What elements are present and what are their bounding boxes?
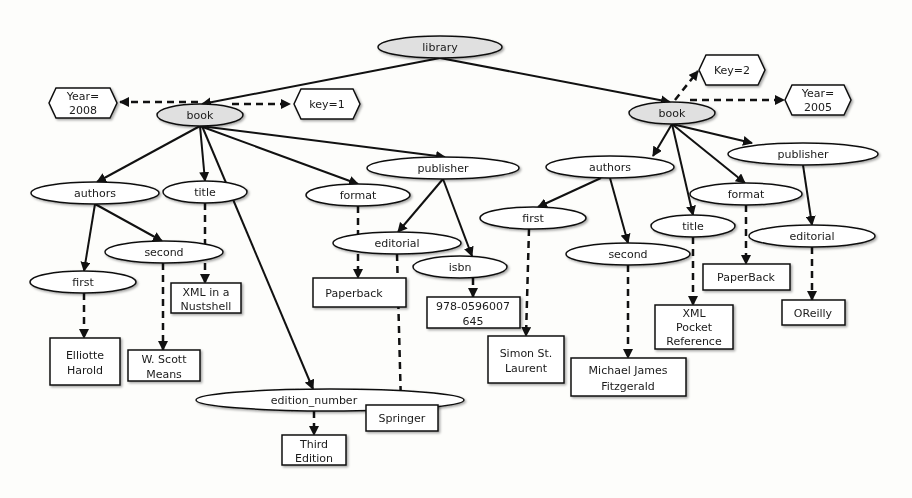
svg-text:W. Scott: W. Scott: [142, 353, 188, 366]
svg-text:title: title: [682, 220, 704, 233]
value-w-scott-means: W. Scott Means: [128, 350, 200, 381]
value-paperback-2: PaperBack: [703, 264, 790, 290]
value-springer: Springer: [366, 405, 438, 431]
node-label: book: [187, 109, 214, 122]
svg-text:Nustshell: Nustshell: [181, 300, 232, 313]
svg-text:OReilly: OReilly: [794, 307, 833, 320]
svg-text:format: format: [728, 188, 765, 201]
svg-text:Harold: Harold: [67, 364, 103, 377]
node-book-2: book: [629, 102, 715, 124]
node-first-1: first: [30, 271, 136, 293]
value-michael-james-fitzgerald: Michael James Fitzgerald: [571, 358, 686, 396]
svg-text:Third: Third: [299, 438, 328, 451]
svg-text:Year=: Year=: [66, 90, 100, 103]
svg-text:Edition: Edition: [295, 452, 333, 465]
svg-text:PaperBack: PaperBack: [717, 271, 775, 284]
svg-text:645: 645: [463, 315, 484, 328]
node-title-2: title: [651, 215, 735, 237]
node-publisher-1: publisher: [367, 157, 519, 179]
value-xml-pocket-reference: XML Pocket Reference: [655, 305, 733, 349]
svg-text:978-0596007: 978-0596007: [436, 300, 510, 313]
svg-text:second: second: [144, 246, 183, 259]
value-third-edition: Third Edition: [282, 435, 346, 465]
value-xml-in-a-nutshell: XML in a Nustshell: [171, 283, 241, 313]
node-isbn-1: isbn: [413, 256, 507, 278]
node-title-1: title: [163, 181, 247, 203]
svg-text:2008: 2008: [69, 104, 97, 117]
svg-text:Fitzgerald: Fitzgerald: [601, 380, 655, 393]
value-paperback-1: Paperback: [313, 278, 406, 307]
svg-text:Means: Means: [146, 368, 182, 381]
svg-text:Springer: Springer: [379, 412, 426, 425]
svg-text:XML: XML: [682, 307, 706, 320]
svg-text:key=1: key=1: [309, 98, 344, 111]
node-format-1: format: [306, 184, 410, 206]
svg-text:second: second: [608, 248, 647, 261]
svg-text:edition_number: edition_number: [271, 394, 358, 407]
value-isbn-number: 978-0596007 645: [427, 297, 520, 328]
svg-text:Michael James: Michael James: [589, 364, 668, 377]
node-second-2: second: [566, 243, 690, 265]
svg-text:Reference: Reference: [666, 335, 722, 348]
svg-text:editorial: editorial: [374, 237, 419, 250]
value-elliotte-harold: Elliotte Harold: [50, 338, 120, 385]
svg-text:Year=: Year=: [801, 87, 835, 100]
svg-text:Pocket: Pocket: [676, 321, 713, 334]
xml-tree-diagram: library book book Year= 2008 key=1 Key=2…: [0, 0, 912, 498]
svg-text:title: title: [194, 186, 216, 199]
svg-text:first: first: [72, 276, 94, 289]
attr-year-2005: Year= 2005: [785, 85, 851, 115]
node-editorial-2: editorial: [749, 225, 875, 247]
node-label: library: [422, 41, 458, 54]
svg-text:publisher: publisher: [777, 148, 829, 161]
svg-text:first: first: [522, 212, 544, 225]
attr-key-2: Key=2: [699, 55, 765, 85]
node-publisher-2: publisher: [728, 143, 878, 165]
node-second-1: second: [105, 241, 223, 263]
node-first-2: first: [480, 207, 586, 229]
attr-year-2008: Year= 2008: [49, 88, 117, 118]
svg-text:publisher: publisher: [417, 162, 469, 175]
svg-text:XML in a: XML in a: [183, 286, 230, 299]
svg-text:2005: 2005: [804, 101, 832, 114]
svg-text:isbn: isbn: [449, 261, 472, 274]
node-library: library: [378, 36, 502, 58]
svg-text:Simon St.: Simon St.: [500, 347, 553, 360]
svg-text:Paperback: Paperback: [325, 287, 383, 300]
svg-text:editorial: editorial: [789, 230, 834, 243]
value-simon-st-laurent: Simon St. Laurent: [488, 336, 564, 383]
svg-text:Key=2: Key=2: [714, 64, 750, 77]
value-oreilly: OReilly: [782, 300, 845, 325]
node-authors-1: authors: [31, 182, 159, 204]
node-editorial-1: editorial: [333, 232, 461, 254]
node-label: book: [659, 107, 686, 120]
svg-text:Elliotte: Elliotte: [66, 349, 104, 362]
svg-text:authors: authors: [589, 161, 631, 174]
svg-text:format: format: [340, 189, 377, 202]
node-format-2: format: [690, 183, 802, 205]
svg-text:authors: authors: [74, 187, 116, 200]
attr-key-1: key=1: [294, 89, 360, 119]
node-book-1: book: [157, 104, 243, 126]
node-authors-2: authors: [546, 156, 674, 178]
svg-text:Laurent: Laurent: [505, 362, 548, 375]
